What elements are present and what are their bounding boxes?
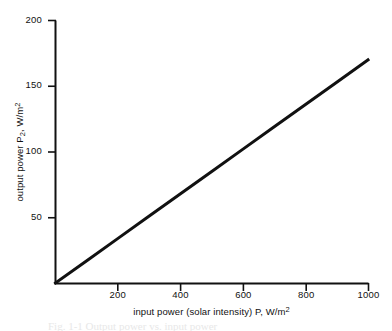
x-tick-label: 800 <box>284 289 328 300</box>
y-axis-title: output power P2, W/m2 <box>10 21 26 283</box>
figure-caption-fragment: Fig. 1-1 Output power vs. input power <box>48 320 298 331</box>
x-axis-title-text: input power (solar intensity) P, W/m <box>133 306 285 317</box>
y-axis-title-unit: , W/m <box>14 107 25 132</box>
x-tick-label: 600 <box>221 289 265 300</box>
x-tick-label: 400 <box>159 289 203 300</box>
data-series-line <box>56 60 369 283</box>
figure-chart: 200 150 100 50 200 400 600 800 1000 outp… <box>0 0 392 331</box>
y-axis-title-subscript: 2 <box>18 132 27 136</box>
x-axis-title: input power (solar intensity) P, W/m2 <box>55 305 368 317</box>
plot-area <box>0 0 392 331</box>
y-axis-title-text: output power P <box>14 136 25 201</box>
x-tick-label: 200 <box>96 289 140 300</box>
x-tick-label: 1000 <box>347 289 391 300</box>
x-axis-title-superscript: 2 <box>286 305 290 314</box>
y-axis-title-superscript: 2 <box>13 102 22 106</box>
